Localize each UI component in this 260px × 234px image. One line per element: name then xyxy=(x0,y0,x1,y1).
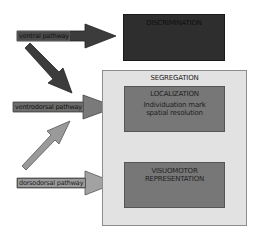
discrimination-title: DISCRIMINATION xyxy=(124,19,224,27)
ventrodorsal-pathway-label: ventrodorsal pathway xyxy=(13,102,84,112)
dorsodorsal-to-localization-diagonal-arrow xyxy=(22,121,70,170)
discrimination-box: DISCRIMINATION xyxy=(123,14,225,61)
segregation-title: SEGREGATION xyxy=(103,74,246,82)
localization-box: LOCALIZATION Individuation mark spatial … xyxy=(124,86,225,132)
localization-line-2: spatial resolution xyxy=(125,109,224,117)
localization-line-1: Individuation mark xyxy=(125,101,224,109)
ventral-to-localization-diagonal-arrow xyxy=(25,43,72,93)
dorsodorsal-pathway-label: dorsodorsal pathway xyxy=(17,178,86,188)
ventral-pathway-label: ventral pathway xyxy=(17,31,70,41)
visuomotor-line-1: VISUOMOTOR xyxy=(125,167,224,175)
visuomotor-box: VISUOMOTOR REPRESENTATION xyxy=(124,162,225,208)
localization-title: LOCALIZATION xyxy=(125,90,224,98)
visuomotor-line-2: REPRESENTATION xyxy=(125,175,224,183)
